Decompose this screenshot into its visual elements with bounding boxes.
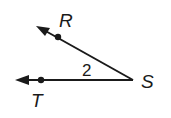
angle-diagram: R T S 2 (0, 0, 171, 118)
point-r (55, 34, 61, 40)
label-s: S (141, 72, 154, 91)
arrowhead-r-icon (36, 26, 50, 36)
label-t: T (31, 91, 43, 110)
angle-figure (0, 0, 171, 118)
point-t (38, 77, 44, 83)
label-r: R (59, 11, 73, 30)
arrowhead-t-icon (15, 75, 29, 85)
angle-label: 2 (82, 62, 91, 79)
